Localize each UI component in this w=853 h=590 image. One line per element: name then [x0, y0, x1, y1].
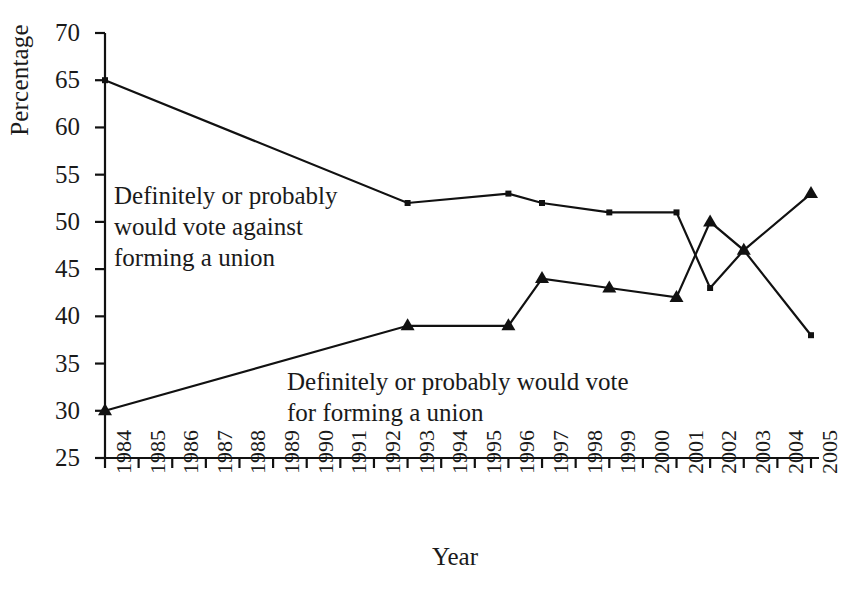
data-point-square	[808, 332, 814, 338]
series-line-0	[105, 80, 811, 335]
series-against	[102, 77, 814, 338]
data-point-square	[505, 191, 511, 197]
data-point-triangle	[401, 318, 415, 330]
chart-page: Percentage Year 25303540455055606570 198…	[0, 0, 853, 590]
data-point-triangle	[535, 271, 549, 283]
data-point-square	[707, 285, 713, 291]
data-point-square	[539, 200, 545, 206]
data-point-square	[102, 77, 108, 83]
line-chart-plot	[0, 0, 853, 590]
data-point-square	[606, 209, 612, 215]
data-point-triangle	[804, 186, 818, 198]
data-point-square	[405, 200, 411, 206]
data-point-triangle	[737, 243, 751, 255]
data-point-square	[674, 209, 680, 215]
data-point-triangle	[703, 214, 717, 226]
series-for	[98, 186, 818, 415]
